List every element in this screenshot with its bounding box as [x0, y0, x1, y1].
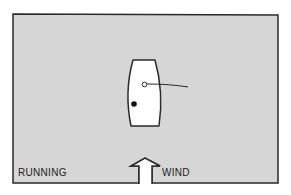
- wind-label: WIND: [162, 167, 190, 178]
- crew-dot-icon: [131, 101, 137, 107]
- running-diagram: [0, 0, 291, 195]
- point-of-sail-label: RUNNING: [18, 167, 67, 178]
- mast-icon: [142, 82, 147, 87]
- boat-hull-icon: [128, 60, 161, 126]
